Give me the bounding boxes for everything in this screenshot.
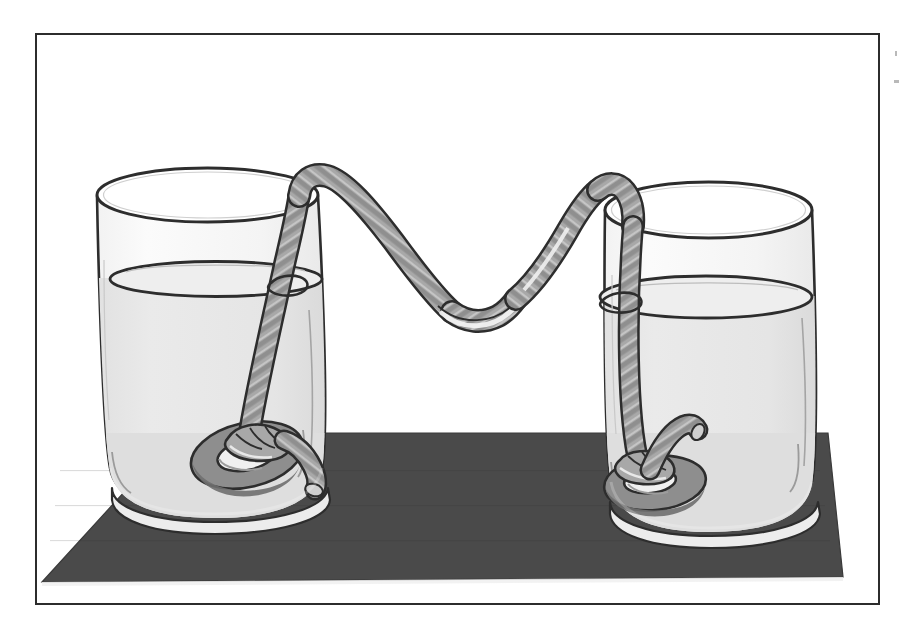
figure-frame bbox=[35, 33, 880, 605]
scan-speck bbox=[894, 80, 899, 83]
scan-speck bbox=[895, 51, 897, 56]
figure-page: Two glasses of water connected by a twis… bbox=[0, 0, 909, 640]
